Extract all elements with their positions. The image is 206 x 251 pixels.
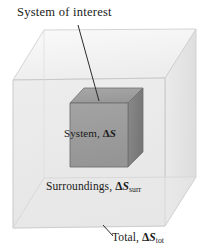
thermodynamics-system-surroundings-diagram: System of interest System, ΔS Surroundin… bbox=[0, 0, 206, 251]
label-system: System, ΔS bbox=[64, 128, 116, 139]
label-surroundings: Surroundings, ΔSsurr bbox=[46, 181, 141, 194]
label-total: Total, ΔStot bbox=[112, 232, 164, 245]
label-total-prefix: Total, bbox=[112, 231, 142, 243]
label-system-symbol: S bbox=[110, 127, 116, 139]
label-total-subscript: tot bbox=[156, 236, 164, 245]
label-system-prefix: System, bbox=[64, 127, 103, 139]
label-surroundings-prefix: Surroundings, bbox=[46, 180, 115, 192]
diagram-canvas bbox=[0, 0, 206, 251]
label-system-of-interest: System of interest bbox=[17, 6, 112, 19]
label-system-delta: Δ bbox=[103, 127, 110, 139]
label-surroundings-subscript: surr bbox=[129, 185, 141, 194]
outer-box-top-face bbox=[13, 29, 196, 80]
